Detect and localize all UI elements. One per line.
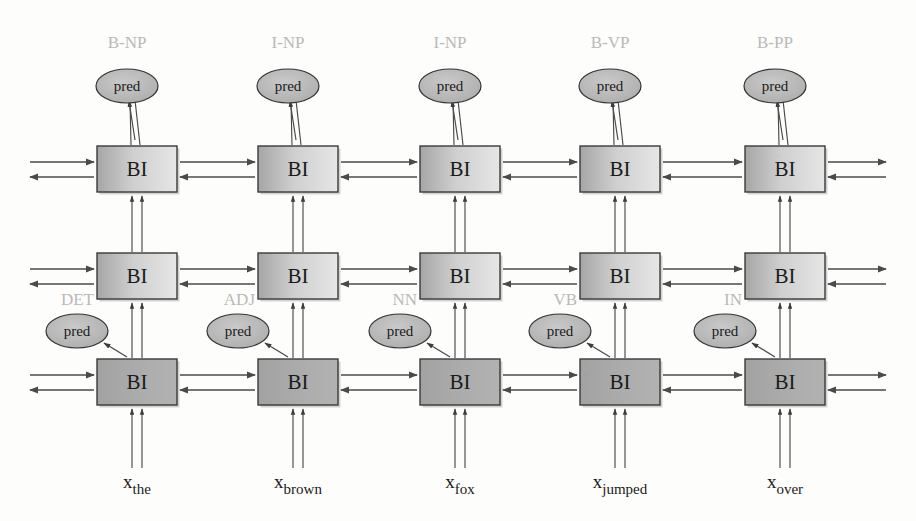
pred-label: pred	[64, 323, 91, 339]
input-base: x	[445, 471, 455, 492]
input-base: x	[123, 471, 133, 492]
pred-label: pred	[437, 78, 464, 94]
bi-cell-label: BI	[450, 370, 471, 394]
pred-label: pred	[597, 78, 624, 94]
pred-label: pred	[114, 78, 141, 94]
chunk-tag-label: I-NP	[271, 33, 304, 52]
pred-label: pred	[225, 323, 252, 339]
bi-cell-label: BI	[127, 157, 148, 181]
input-label: xfox	[445, 471, 475, 497]
bi-cell-label: BI	[288, 370, 309, 394]
pred-connector	[296, 100, 301, 145]
bi-cell-label: BI	[127, 264, 148, 288]
pred-arrow	[427, 343, 450, 357]
diagram-canvas: predB-NPpredpredI-NPpredpredI-NPpredpred…	[0, 0, 916, 521]
bi-cell-label: BI	[610, 157, 631, 181]
pos-tag-label: ADJ	[224, 290, 256, 309]
input-label: xover	[767, 471, 803, 497]
input-base: x	[274, 471, 284, 492]
chunk-tag-label: I-NP	[433, 33, 466, 52]
bi-cell-label: BI	[288, 264, 309, 288]
bi-cell-label: BI	[450, 264, 471, 288]
bi-cell-label: BI	[127, 370, 148, 394]
pos-tag-label: VB	[553, 290, 577, 309]
pred-arrow	[104, 343, 127, 357]
bi-cell-label: BI	[610, 370, 631, 394]
input-subscript: brown	[284, 481, 323, 497]
chunk-tag-label: B-PP	[757, 33, 793, 52]
pos-tag-label: IN	[724, 290, 742, 309]
pred-connector	[618, 100, 623, 145]
pred-label: pred	[387, 323, 414, 339]
bi-cell-label: BI	[288, 157, 309, 181]
pos-tag-label: NN	[392, 290, 417, 309]
rnn-diagram: predB-NPpredpredI-NPpredpredI-NPpredpred…	[0, 0, 916, 521]
pos-tag-label: DET	[61, 290, 95, 309]
input-label: xjumped	[593, 471, 648, 497]
input-subscript: fox	[455, 481, 475, 497]
pred-label: pred	[712, 323, 739, 339]
input-base: x	[593, 471, 603, 492]
bi-cell-label: BI	[450, 157, 471, 181]
pred-label: pred	[547, 323, 574, 339]
pred-arrow	[587, 343, 610, 357]
input-label: xbrown	[274, 471, 322, 497]
bi-cell-label: BI	[775, 264, 796, 288]
input-subscript: the	[133, 481, 152, 497]
bi-cell-label: BI	[610, 264, 631, 288]
pred-label: pred	[762, 78, 789, 94]
input-base: x	[767, 471, 777, 492]
input-subscript: jumped	[601, 481, 647, 497]
pred-arrow	[752, 343, 775, 357]
pred-connector	[135, 100, 140, 145]
pred-connector	[783, 100, 788, 145]
pred-arrow	[265, 343, 288, 357]
bi-cell-label: BI	[775, 157, 796, 181]
input-subscript: over	[776, 481, 803, 497]
input-label: xthe	[123, 471, 151, 497]
pred-connector	[458, 100, 463, 145]
pred-label: pred	[275, 78, 302, 94]
chunk-tag-label: B-VP	[591, 33, 630, 52]
chunk-tag-label: B-NP	[108, 33, 147, 52]
bi-cell-label: BI	[775, 370, 796, 394]
